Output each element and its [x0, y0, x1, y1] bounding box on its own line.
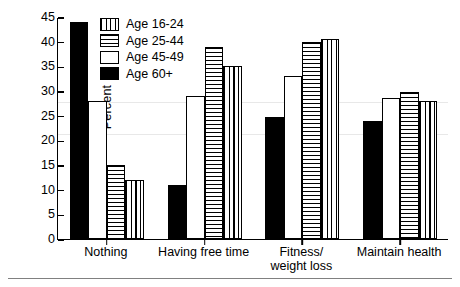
bottom-divider: [8, 278, 452, 279]
bar[interactable]: [284, 76, 303, 239]
bar[interactable]: [400, 92, 419, 239]
bar[interactable]: [382, 98, 401, 239]
bar[interactable]: [88, 101, 107, 239]
bar-group-bars: [254, 18, 352, 239]
bar[interactable]: [125, 180, 144, 239]
bar-chart: Percent 051015202530354045 NothingHaving…: [0, 0, 460, 287]
y-tick-label: 5: [48, 207, 55, 221]
y-tick-label: 35: [41, 59, 55, 73]
y-tick-label: 25: [41, 109, 55, 123]
bar[interactable]: [321, 39, 340, 239]
bar-group-bars: [351, 18, 449, 239]
x-axis-tick-label: Maintain health: [350, 245, 448, 259]
y-tick-label: 0: [48, 232, 55, 246]
bar[interactable]: [363, 121, 382, 239]
legend-swatch-icon: [100, 51, 119, 64]
bar-group: [254, 18, 352, 239]
bar[interactable]: [168, 185, 187, 239]
legend-item[interactable]: Age 25-44: [100, 33, 208, 50]
y-tick-label: 45: [41, 10, 55, 24]
bar[interactable]: [223, 66, 242, 239]
legend-swatch-icon: [100, 18, 119, 31]
y-tick-label: 30: [41, 84, 55, 98]
x-axis-tick-label: Nothing: [57, 245, 155, 259]
bar[interactable]: [70, 22, 89, 239]
legend-item-label: Age 16-24: [126, 17, 184, 31]
y-tick-label: 15: [41, 158, 55, 172]
legend-item-label: Age 25-44: [126, 34, 184, 48]
legend-item[interactable]: Age 45-49: [100, 49, 208, 66]
x-axis-tick-label: Having free time: [155, 245, 253, 259]
y-tick-mark: [58, 239, 64, 241]
y-tick-label: 10: [41, 183, 55, 197]
y-tick-label: 40: [41, 35, 55, 49]
bar[interactable]: [265, 117, 284, 239]
bar-group: [351, 18, 449, 239]
bar[interactable]: [419, 101, 438, 239]
x-axis-tick-label: Fitness/ weight loss: [253, 245, 351, 273]
legend-item-label: Age 60+: [126, 67, 173, 81]
bar[interactable]: [186, 96, 205, 239]
legend: Age 16-24Age 25-44Age 45-49Age 60+: [100, 16, 208, 82]
legend-swatch-icon: [100, 34, 119, 47]
y-tick-label: 20: [41, 133, 55, 147]
legend-swatch-icon: [100, 67, 119, 80]
legend-item[interactable]: Age 60+: [100, 66, 208, 83]
bar[interactable]: [107, 165, 126, 239]
bar[interactable]: [302, 42, 321, 239]
legend-item-label: Age 45-49: [126, 50, 184, 64]
legend-item[interactable]: Age 16-24: [100, 16, 208, 33]
